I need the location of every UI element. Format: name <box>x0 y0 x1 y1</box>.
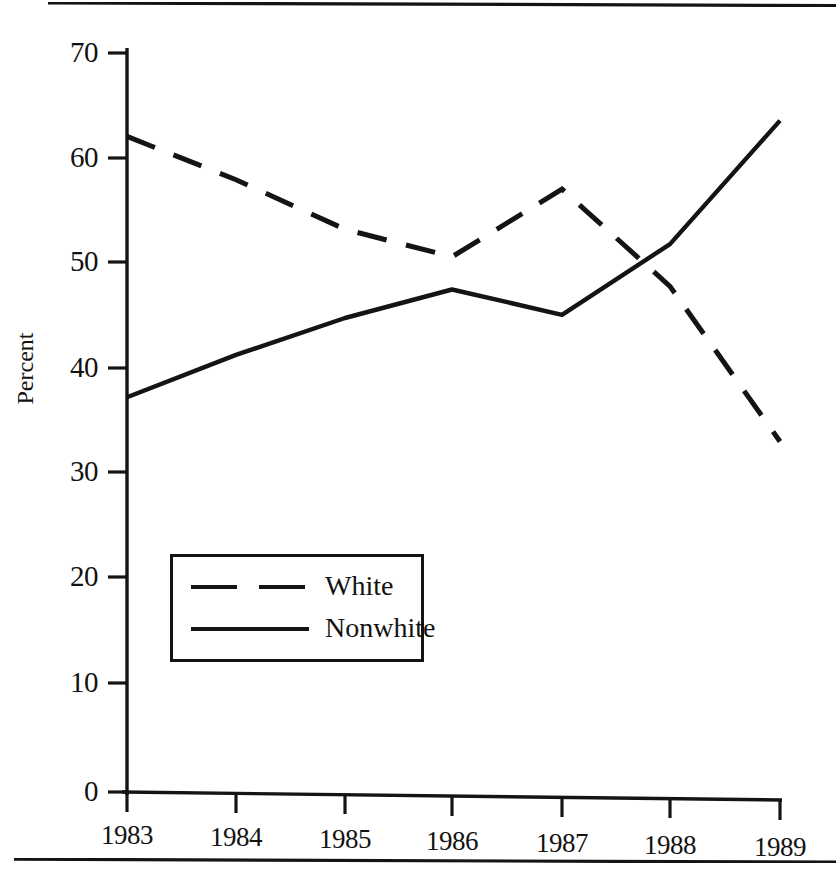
chart-figure: Percent 70 60 50 40 30 <box>0 0 836 883</box>
plot-area <box>0 0 836 883</box>
y-tick-label-60: 60 <box>36 143 98 172</box>
y-axis-ticks <box>108 53 127 792</box>
x-tick-label-1983: 1983 <box>77 822 177 849</box>
y-tick-label-20: 20 <box>36 562 98 591</box>
chart-legend: White Nonwhite <box>170 554 424 662</box>
series-line-nonwhite <box>127 121 780 398</box>
y-tick-label-70: 70 <box>36 38 98 67</box>
y-tick-label-40: 40 <box>36 353 98 382</box>
y-tick-label-50: 50 <box>36 247 98 276</box>
legend-label-white: White <box>325 569 393 603</box>
y-tick-label-0: 0 <box>36 777 98 806</box>
x-tick-label-1986: 1986 <box>402 828 502 855</box>
y-tick-label-30: 30 <box>36 457 98 486</box>
x-tick-label-1988: 1988 <box>620 832 720 859</box>
legend-item-white: White <box>173 565 421 609</box>
legend-swatch-dashed-line <box>191 585 309 589</box>
x-tick-label-1984: 1984 <box>186 824 286 851</box>
legend-item-nonwhite: Nonwhite <box>173 607 421 651</box>
axes <box>122 48 782 800</box>
x-tick-label-1989: 1989 <box>730 834 830 861</box>
x-tick-label-1987: 1987 <box>512 830 612 857</box>
x-axis-ticks <box>127 792 780 820</box>
bottom-rule <box>0 858 836 863</box>
y-tick-label-10: 10 <box>36 668 98 697</box>
legend-swatch-solid-line <box>191 627 309 631</box>
x-tick-label-1985: 1985 <box>295 826 395 853</box>
legend-label-nonwhite: Nonwhite <box>325 611 435 645</box>
